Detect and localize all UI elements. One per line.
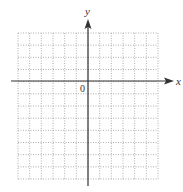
y-axis-label: y: [84, 5, 90, 17]
origin-label: 0: [80, 83, 85, 94]
x-axis-label: x: [175, 75, 181, 87]
coordinate-plane: x y 0: [0, 0, 183, 192]
